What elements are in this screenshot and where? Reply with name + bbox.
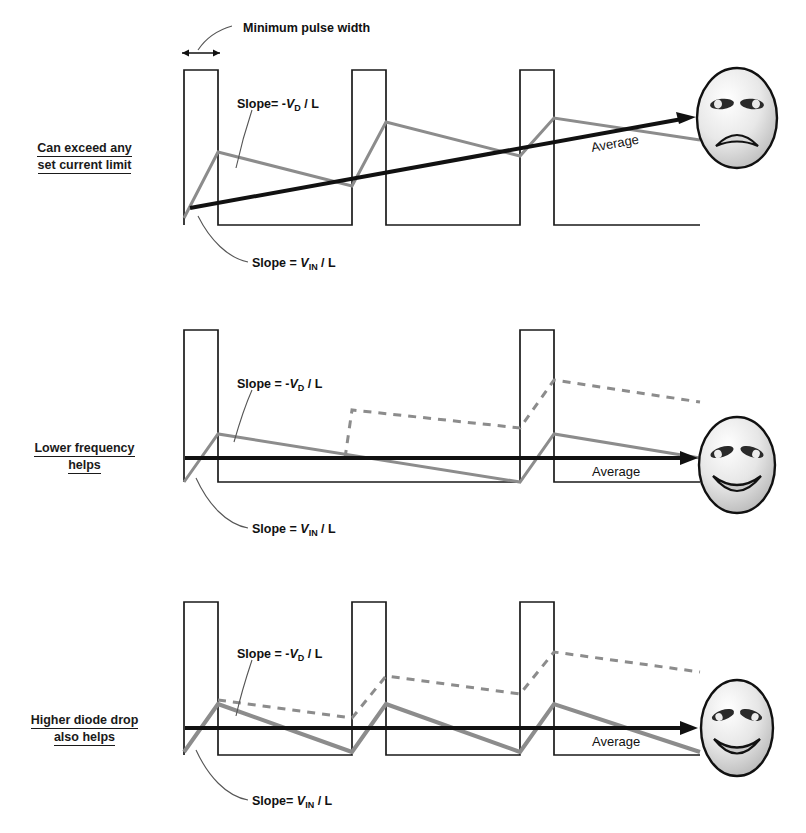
panel-higher-diode-drop-also-helps: Slope = -VD / L Slope= VIN / L Average — [0, 560, 806, 833]
min-pulse-width-leader-icon — [198, 26, 232, 50]
slope-up-leader-icon — [198, 216, 248, 262]
panel-3-side-label: Higher diode drop also helps — [2, 712, 167, 746]
slope-up-label: Slope = VIN / L — [252, 256, 336, 272]
panel-2-side-label-line-2: helps — [68, 457, 101, 474]
panel-3-side-label-line-2: also helps — [54, 729, 115, 746]
sad-face — [697, 68, 777, 168]
average-arrow — [190, 112, 696, 208]
panel-3-side-label-line-1: Higher diode drop — [31, 712, 139, 729]
panel-1-side-label-line-1: Can exceed any — [37, 140, 132, 157]
panel-1-side-label: Can exceed any set current limit — [2, 140, 167, 174]
panel-lower-frequency-helps: Slope = -VD / L Slope = VIN / L Average — [0, 290, 806, 560]
happy-face — [701, 680, 773, 776]
average-arrow — [185, 451, 698, 465]
slope-up-label: Slope = VIN / L — [252, 522, 336, 538]
slope-down-label: Slope = -VD / L — [237, 377, 323, 393]
average-label: Average — [592, 734, 640, 749]
panel-2-side-label: Lower frequency helps — [2, 440, 167, 474]
switch-node-waveform — [184, 602, 700, 755]
reference-current-waveform — [218, 652, 700, 718]
panel-3-figure: Slope = -VD / L Slope= VIN / L Average — [0, 560, 806, 833]
slope-down-label: Slope = -VD / L — [237, 647, 323, 663]
min-pulse-width-label: Minimum pulse width — [243, 21, 370, 35]
slope-up-label: Slope= VIN / L — [252, 794, 333, 810]
average-label: Average — [592, 464, 640, 479]
panel-1-side-label-line-2: set current limit — [38, 157, 132, 174]
panel-2-figure: Slope = -VD / L Slope = VIN / L Average — [0, 290, 806, 560]
panel-2-side-label-line-1: Lower frequency — [34, 440, 134, 457]
inductor-current-waveform — [184, 118, 700, 218]
happy-face — [699, 417, 775, 513]
slope-down-leader-icon — [234, 390, 252, 442]
reference-current-waveform — [345, 380, 700, 458]
slope-up-leader-icon — [196, 478, 248, 528]
min-pulse-width-arrow-icon — [182, 49, 220, 56]
slope-down-label: Slope= -VD / L — [237, 97, 319, 113]
slope-down-leader-icon — [236, 660, 252, 716]
slope-up-leader-icon — [196, 750, 248, 800]
